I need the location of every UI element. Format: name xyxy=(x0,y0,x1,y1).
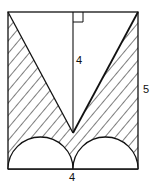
rect-height-label: 5 xyxy=(143,83,149,95)
right-angle-marker xyxy=(73,12,83,22)
rect-width-label: 4 xyxy=(69,171,75,183)
altitude-label: 4 xyxy=(76,54,82,66)
geometry-diagram: 4 5 4 xyxy=(0,0,153,184)
